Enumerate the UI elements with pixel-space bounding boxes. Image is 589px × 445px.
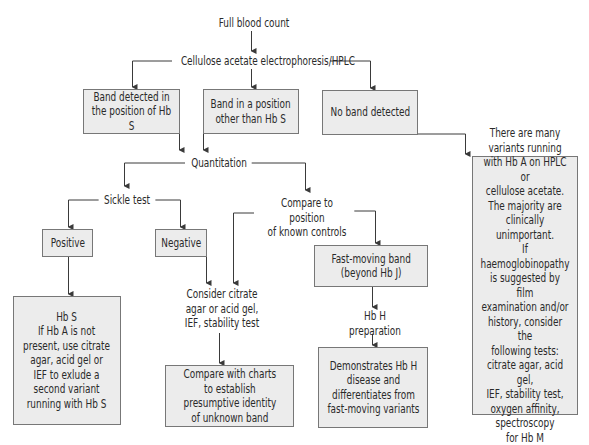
node-quantitation: Quantitation bbox=[186, 156, 251, 171]
node-electrophoresis: Cellulose acetate electrophoresis/HPLC bbox=[178, 54, 329, 69]
box-fast-moving-band-text: Fast-moving band (beyond Hb J) bbox=[331, 252, 410, 281]
node-sickle-test: Sickle test bbox=[99, 193, 156, 208]
node-consider-citrate: Consider citrate agar or acid gel, IEF, … bbox=[169, 287, 276, 331]
box-positive: Positive bbox=[42, 229, 93, 257]
node-compare-controls: Compare to position of known controls bbox=[260, 196, 355, 240]
node-full-blood-count: Full blood count bbox=[208, 16, 299, 31]
box-no-band-text: No band detected bbox=[330, 105, 410, 120]
box-band-other: Band in a position other than Hb S bbox=[203, 89, 299, 134]
box-many-variants-text: There are many variants running with Hb … bbox=[480, 126, 569, 445]
box-negative-text: Negative bbox=[161, 236, 201, 251]
box-band-hbs-text: Band detected in the position of Hb S bbox=[91, 90, 173, 134]
box-band-other-text: Band in a position other than Hb S bbox=[211, 97, 291, 126]
node-hbh-preparation: Hb H preparation bbox=[341, 309, 408, 338]
box-negative: Negative bbox=[155, 229, 207, 257]
box-demonstrates-hbh-text: Demonstrates Hb H disease and differenti… bbox=[327, 359, 419, 417]
box-many-variants: There are many variants running with Hb … bbox=[472, 156, 578, 415]
box-compare-charts-text: Compare with charts to establish presump… bbox=[183, 367, 276, 425]
box-hbs-result-text: Hb S If Hb A is not present, use citrate… bbox=[24, 310, 111, 412]
box-compare-charts: Compare with charts to establish presump… bbox=[165, 365, 294, 427]
box-hbs-result: Hb S If Hb A is not present, use citrate… bbox=[13, 296, 121, 425]
box-demonstrates-hbh: Demonstrates Hb H disease and differenti… bbox=[318, 347, 428, 428]
box-positive-text: Positive bbox=[50, 236, 84, 251]
box-fast-moving-band: Fast-moving band (beyond Hb J) bbox=[314, 245, 428, 287]
box-no-band: No band detected bbox=[322, 90, 418, 135]
box-band-hbs: Band detected in the position of Hb S bbox=[83, 89, 180, 134]
